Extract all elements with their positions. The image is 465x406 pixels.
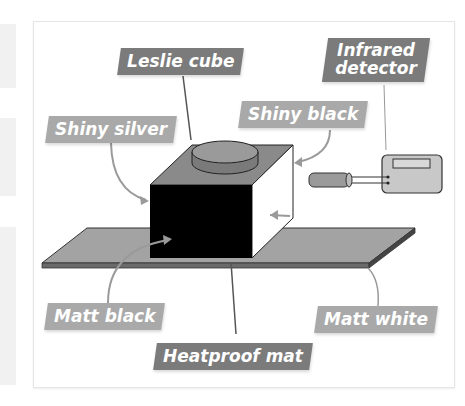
label-matt-black: Matt black <box>44 303 165 330</box>
label-leslie-cube: Leslie cube <box>117 48 244 75</box>
label-infrared-detector: Infrared detector <box>322 38 430 82</box>
label-heatproof-mat-text: Heatproof mat <box>163 346 303 366</box>
label-infrared-line1: Infrared <box>337 41 415 59</box>
label-shiny-black-text: Shiny black <box>248 104 358 124</box>
label-shiny-black: Shiny black <box>238 101 368 128</box>
label-leslie-cube-text: Leslie cube <box>127 51 234 71</box>
label-infrared-detector-text: Infrared detector <box>335 41 417 77</box>
label-shiny-silver: Shiny silver <box>45 116 177 143</box>
label-matt-white-text: Matt white <box>324 309 428 329</box>
label-heatproof-mat: Heatproof mat <box>153 343 313 370</box>
label-shiny-silver-text: Shiny silver <box>55 119 167 139</box>
label-infrared-line2: detector <box>335 59 417 77</box>
infrared-detector <box>309 155 442 193</box>
detector-probe <box>309 173 390 187</box>
cube-lid <box>192 141 258 174</box>
label-matt-black-text: Matt black <box>54 306 155 326</box>
label-matt-white: Matt white <box>314 306 438 333</box>
